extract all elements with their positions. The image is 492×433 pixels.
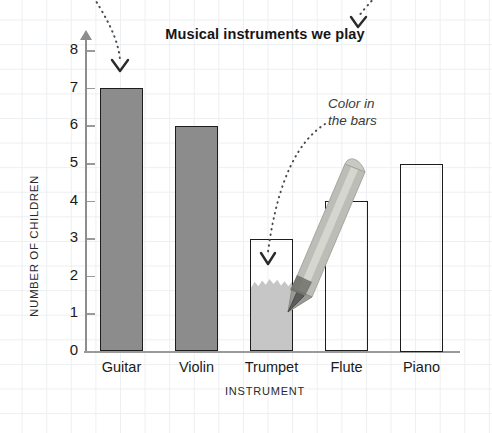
dotted-arrow-down-left-icon — [88, 0, 128, 71]
pencil-icon — [288, 159, 365, 312]
bar-chart: Musical instruments we play 0 1 2 3 4 5 … — [0, 0, 492, 433]
chart-overlay-graphics — [0, 0, 492, 433]
dotted-arrow-down-right-icon — [351, 0, 382, 27]
chart-page: Musical instruments we play 0 1 2 3 4 5 … — [0, 0, 492, 433]
